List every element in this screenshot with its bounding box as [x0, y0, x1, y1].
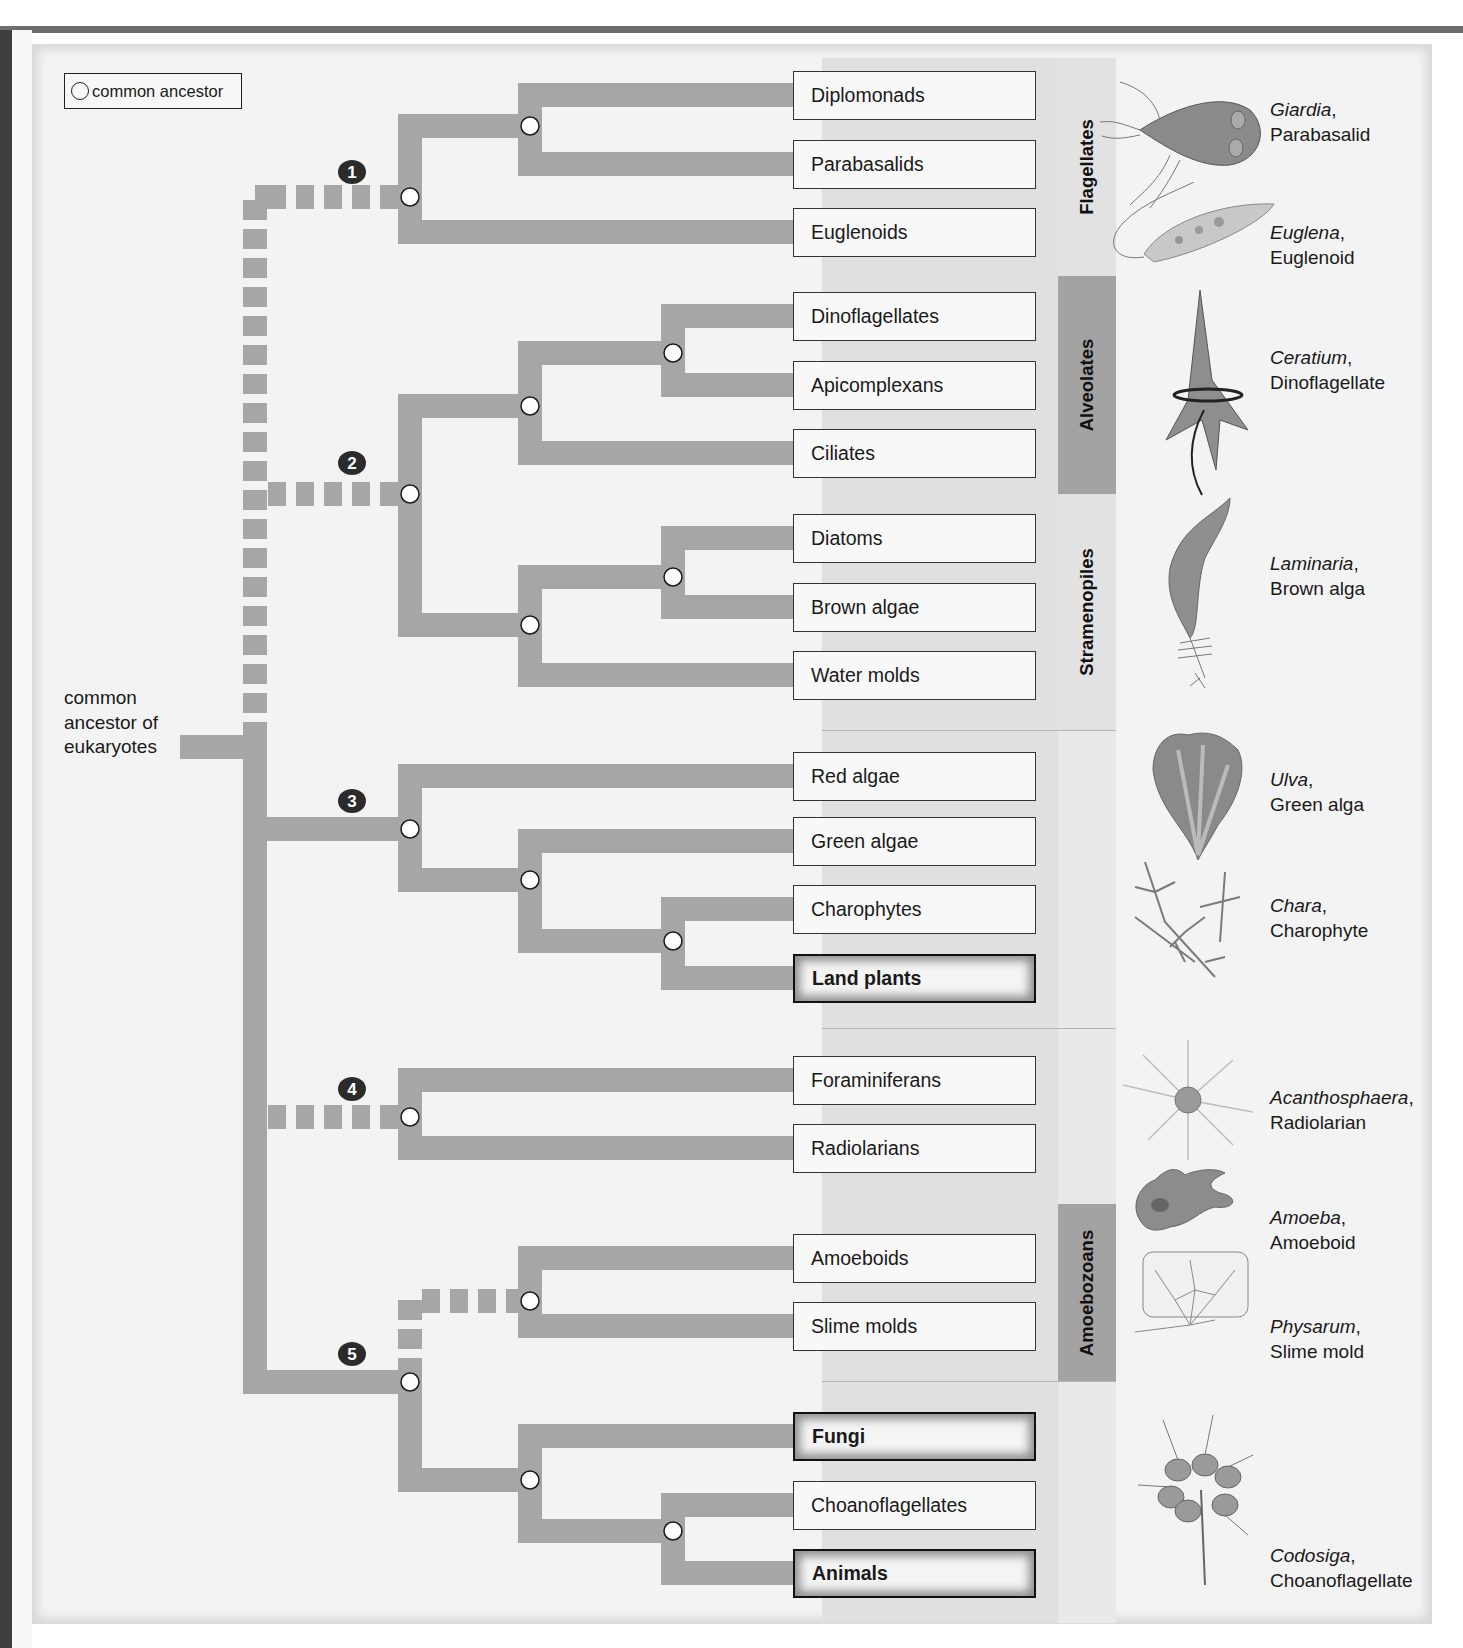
organism-genus: Codosiga	[1270, 1545, 1350, 1566]
organism-label: Acanthosphaera,Radiolarian	[1270, 1086, 1414, 1135]
euglena-illustration	[1104, 182, 1284, 276]
taxon-box: Diplomonads	[793, 71, 1036, 120]
legend: common ancestor	[64, 73, 242, 109]
taxon-label: Apicomplexans	[811, 374, 943, 397]
group-badges: 12345	[338, 160, 366, 1366]
taxon-label: Amoeboids	[811, 1247, 909, 1270]
organism-label: Ulva,Green alga	[1270, 768, 1364, 817]
taxon-label: Water molds	[811, 664, 920, 687]
taxon-label: Parabasalids	[811, 153, 924, 176]
organism-label: Laminaria,Brown alga	[1270, 552, 1365, 601]
acanthosphaera-illustration	[1123, 1040, 1253, 1164]
organism-common-name: Brown alga	[1270, 577, 1365, 602]
organism-genus: Giardia	[1270, 99, 1331, 120]
organism-genus: Laminaria	[1270, 553, 1353, 574]
taxon-box: Red algae	[793, 752, 1036, 801]
taxon-box: Euglenoids	[793, 208, 1036, 257]
taxon-box: Ciliates	[793, 429, 1036, 478]
root-label-line: eukaryotes	[64, 735, 158, 760]
organism-label: Chara,Charophyte	[1270, 894, 1368, 943]
taxon-box: Water molds	[793, 651, 1036, 700]
common-ancestor-node-icon	[664, 344, 682, 362]
group-number-badge: 1	[338, 160, 366, 184]
organism-label: Ceratium,Dinoflagellate	[1270, 346, 1385, 395]
organism-genus: Euglena	[1270, 222, 1340, 243]
taxon-box: Charophytes	[793, 885, 1036, 934]
laminaria-illustration	[1150, 498, 1240, 692]
taxon-label: Diatoms	[811, 527, 883, 550]
organism-common-name: Dinoflagellate	[1270, 371, 1385, 396]
chara-illustration	[1125, 862, 1245, 986]
root-label: common ancestor of eukaryotes	[64, 686, 158, 760]
taxon-label: Slime molds	[811, 1315, 917, 1338]
common-ancestor-node-icon	[521, 1292, 539, 1310]
common-ancestor-node-icon	[521, 871, 539, 889]
organism-label: Amoeba,Amoeboid	[1270, 1206, 1356, 1255]
group-number-badge: 4	[338, 1077, 366, 1101]
organism-common-name: Parabasalid	[1270, 123, 1370, 148]
taxon-box: Choanoflagellates	[793, 1481, 1036, 1530]
branches	[180, 83, 793, 1585]
common-ancestor-node-icon	[664, 568, 682, 586]
organism-label: Giardia,Parabasalid	[1270, 98, 1370, 147]
clade-name: Flagellates	[1076, 119, 1098, 215]
taxon-label: Animals	[812, 1562, 888, 1585]
organism-common-name: Charophyte	[1270, 919, 1368, 944]
ulva-illustration	[1148, 730, 1248, 869]
common-ancestor-node-icon	[521, 117, 539, 135]
organism-label: Euglena,Euglenoid	[1270, 221, 1355, 270]
clade-label: Alveolates	[1058, 276, 1116, 494]
taxon-box: Land plants	[793, 954, 1036, 1003]
open-circle-icon	[71, 82, 89, 100]
taxon-box: Green algae	[793, 817, 1036, 866]
organism-label: Physarum,Slime mold	[1270, 1315, 1364, 1364]
taxon-box: Dinoflagellates	[793, 292, 1036, 341]
organism-genus: Chara	[1270, 895, 1322, 916]
clade-label: Stramenopiles	[1058, 494, 1116, 730]
taxon-label: Ciliates	[811, 442, 875, 465]
common-ancestor-node-icon	[401, 1373, 419, 1391]
organism-common-name: Euglenoid	[1270, 246, 1355, 271]
taxon-label: Red algae	[811, 765, 900, 788]
organism-common-name: Choanoflagellate	[1270, 1569, 1413, 1594]
organism-genus: Physarum	[1270, 1316, 1356, 1337]
svg-text:3: 3	[347, 792, 356, 811]
taxon-label: Green algae	[811, 830, 918, 853]
taxon-box: Animals	[793, 1549, 1036, 1598]
clade-name: Stramenopiles	[1076, 548, 1098, 676]
common-ancestor-node-icon	[401, 1108, 419, 1126]
common-ancestor-node-icon	[521, 1471, 539, 1489]
group-number-badge: 3	[338, 789, 366, 813]
common-ancestor-node-icon	[664, 932, 682, 950]
physarum-illustration	[1135, 1250, 1250, 1339]
organism-genus: Ceratium	[1270, 347, 1347, 368]
taxon-label: Foraminiferans	[811, 1069, 941, 1092]
organism-common-name: Slime mold	[1270, 1340, 1364, 1365]
codosiga-illustration	[1133, 1415, 1263, 1589]
group-number-badge: 5	[338, 1342, 366, 1366]
taxon-label: Dinoflagellates	[811, 305, 939, 328]
organism-genus: Amoeba	[1270, 1207, 1341, 1228]
svg-text:5: 5	[347, 1345, 356, 1364]
taxon-label: Radiolarians	[811, 1137, 919, 1160]
root-label-line: ancestor of	[64, 711, 158, 736]
common-ancestor-node-icon	[401, 820, 419, 838]
group-number-badge: 2	[338, 451, 366, 475]
organism-genus: Ulva	[1270, 769, 1308, 790]
taxon-label: Fungi	[812, 1425, 865, 1448]
svg-text:2: 2	[347, 454, 356, 473]
clade-label: Amoebozoans	[1058, 1204, 1116, 1381]
taxon-box: Slime molds	[793, 1302, 1036, 1351]
organism-common-name: Green alga	[1270, 793, 1364, 818]
organism-label: Codosiga,Choanoflagellate	[1270, 1544, 1413, 1593]
taxon-label: Choanoflagellates	[811, 1494, 967, 1517]
common-ancestor-node-icon	[401, 188, 419, 206]
taxon-box: Foraminiferans	[793, 1056, 1036, 1105]
taxon-box: Brown algae	[793, 583, 1036, 632]
ceratium-illustration	[1158, 290, 1258, 504]
taxon-box: Radiolarians	[793, 1124, 1036, 1173]
common-ancestor-node-icon	[401, 485, 419, 503]
taxon-box: Parabasalids	[793, 140, 1036, 189]
taxon-box: Diatoms	[793, 514, 1036, 563]
amoeba-illustration	[1130, 1165, 1245, 1239]
